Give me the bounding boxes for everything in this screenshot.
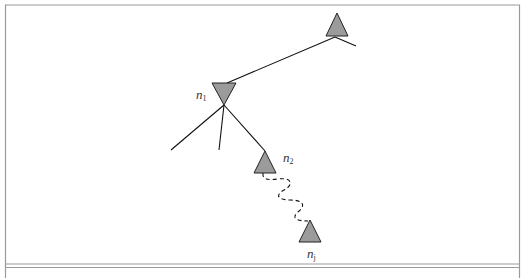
n1-node-triangle <box>212 83 236 105</box>
n2-label: n2 <box>283 150 294 166</box>
n2-node-triangle <box>254 151 276 173</box>
root-node-triangle <box>326 13 348 36</box>
edge-n2-nj-dashed <box>263 173 308 221</box>
edge-root-n1 <box>227 37 335 83</box>
nj-label: nj <box>307 246 316 262</box>
edge-n1-left <box>171 105 224 150</box>
edge-n1-middle <box>219 105 224 150</box>
diagram-frame: n1 n2 nj <box>0 0 530 278</box>
nj-node-triangle <box>299 220 321 242</box>
edge-root-branch <box>335 37 356 46</box>
edge-n1-n2 <box>224 105 265 151</box>
tree-diagram: n1 n2 nj <box>0 0 530 278</box>
n1-label: n1 <box>196 87 207 103</box>
frame-border <box>5 5 520 278</box>
